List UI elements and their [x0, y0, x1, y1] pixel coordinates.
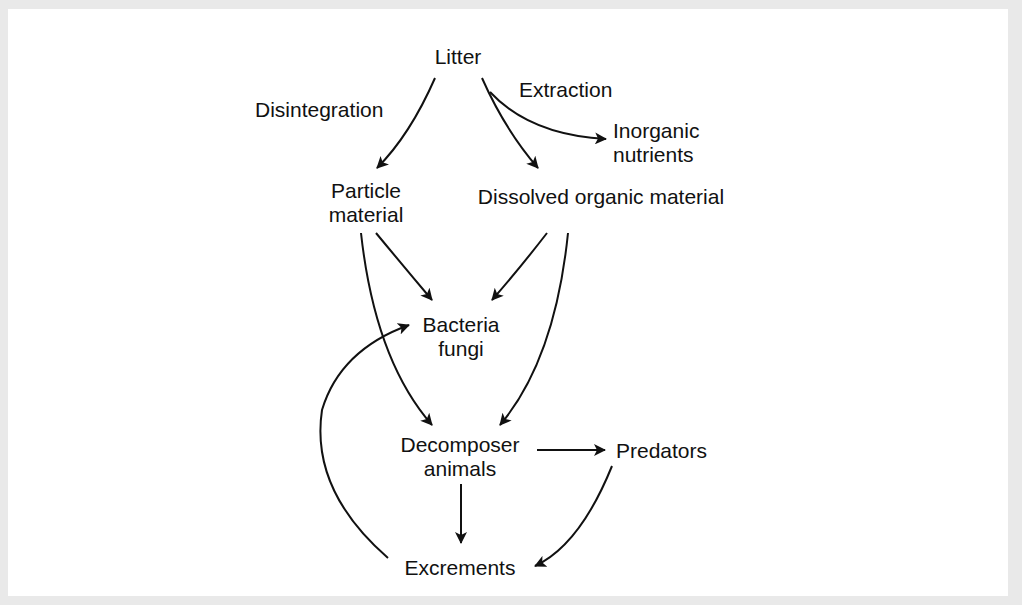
edge-label-extraction: Extraction: [519, 78, 612, 102]
disintegration-label: Disintegration: [255, 98, 383, 122]
node-particle-material: Particle material: [329, 179, 404, 227]
diagram-canvas: Litter Disintegration Extraction Inorgan…: [0, 0, 1022, 605]
edge-label-disintegration: Disintegration: [255, 98, 383, 122]
decomposer-line-1: Decomposer: [400, 433, 519, 457]
inorganic-line-1: Inorganic: [613, 119, 699, 143]
decomposer-line-2: animals: [400, 457, 519, 481]
arrows-layer: [0, 0, 1022, 605]
node-excrements: Excrements: [405, 556, 516, 580]
particle-line-1: Particle: [329, 179, 404, 203]
arrow-particle-to-bacteria: [376, 233, 432, 300]
node-decomposer-animals: Decomposer animals: [400, 433, 519, 481]
arrow-predators-to-excrements: [535, 466, 612, 566]
node-litter: Litter: [435, 45, 482, 69]
excrements-label: Excrements: [405, 556, 516, 580]
dissolved-label: Dissolved organic material: [478, 185, 724, 209]
node-inorganic-nutrients: Inorganic nutrients: [613, 119, 699, 167]
predators-label: Predators: [616, 439, 707, 463]
node-dissolved-organic-material: Dissolved organic material: [478, 185, 724, 209]
particle-line-2: material: [329, 203, 404, 227]
bacteria-line-1: Bacteria: [422, 313, 499, 337]
extraction-label: Extraction: [519, 78, 612, 102]
arrow-dissolved-to-decomposer: [500, 233, 568, 425]
arrow-litter-to-particle: [377, 78, 435, 168]
node-litter-label: Litter: [435, 45, 482, 69]
node-bacteria-fungi: Bacteria fungi: [422, 313, 499, 361]
arrow-dissolved-to-bacteria: [492, 233, 547, 300]
node-predators: Predators: [616, 439, 707, 463]
bacteria-line-2: fungi: [422, 337, 499, 361]
arrow-excrements-to-bacteria: [320, 325, 409, 558]
inorganic-line-2: nutrients: [613, 143, 699, 167]
